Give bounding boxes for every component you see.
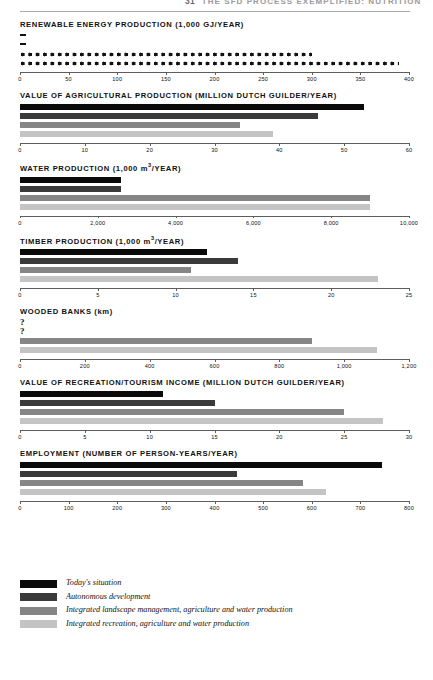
axis-tick	[20, 359, 21, 362]
axis-tick-label: 0	[18, 220, 21, 226]
axis-tick	[344, 430, 345, 433]
bar-series-0	[20, 391, 163, 397]
axis-tick-label: 0	[18, 147, 21, 153]
bar-series-2	[20, 480, 303, 486]
plot-area: 051015202530	[20, 391, 409, 443]
axis-tick	[279, 143, 280, 146]
axis-tick	[253, 216, 254, 219]
axis-tick-label: 200	[80, 363, 90, 369]
axis-tick	[215, 72, 216, 75]
axis-tick-label: 20	[328, 292, 335, 298]
bar-row	[20, 104, 409, 113]
axis-tick	[279, 359, 280, 362]
axis-tick	[215, 359, 216, 362]
axis-tick-label: 600	[307, 505, 317, 511]
axis-tick-label: 5	[96, 292, 99, 298]
axis-tick	[215, 501, 216, 504]
axis-tick-label: 5	[83, 434, 86, 440]
axis-tick	[312, 501, 313, 504]
axis-tick-label: 350	[355, 76, 365, 82]
axis-tick	[85, 430, 86, 433]
x-axis: 02004006008001,0001,200	[20, 359, 409, 372]
bar-rows	[20, 104, 409, 140]
bar-row	[20, 186, 409, 195]
bar-row	[20, 60, 409, 69]
bar-row	[20, 462, 409, 471]
bar-series-0	[20, 104, 364, 110]
plot-area: ??02004006008001,0001,200	[20, 320, 409, 372]
bar-series-1	[20, 113, 318, 119]
axis-tick	[279, 430, 280, 433]
figure-page: 31 THE SFD PROCESS EXEMPLIFIED: NUTRITIO…	[0, 0, 433, 680]
axis-tick	[344, 143, 345, 146]
bar-row	[20, 267, 409, 276]
bar-row	[20, 391, 409, 400]
axis-tick	[85, 359, 86, 362]
axis-tick-label: 100	[64, 505, 74, 511]
axis-tick-label: 4,000	[168, 220, 183, 226]
axis-tick	[344, 359, 345, 362]
axis-tick-label: 500	[258, 505, 268, 511]
bar-row	[20, 249, 409, 258]
bar-row: ?	[20, 320, 409, 329]
bar-series-2	[20, 338, 312, 344]
bar-row	[20, 195, 409, 204]
axis-tick	[409, 359, 410, 362]
axis-tick-label: 15	[211, 434, 218, 440]
chart-title: WOODED BANKS (km)	[20, 307, 433, 316]
axis-tick-label: 300	[307, 76, 317, 82]
axis-tick	[409, 216, 410, 219]
bar-series-0	[20, 462, 382, 468]
axis-tick	[331, 216, 332, 219]
bar-series-1	[20, 400, 215, 406]
axis-tick	[20, 143, 21, 146]
axis-tick-label: 10	[172, 292, 179, 298]
axis-tick	[117, 501, 118, 504]
axis-tick-label: 0	[18, 292, 21, 298]
axis-tick-label: 200	[210, 76, 220, 82]
axis-tick	[20, 501, 21, 504]
axis-tick-label: 20	[276, 434, 283, 440]
bar-row	[20, 400, 409, 409]
axis-tick	[150, 143, 151, 146]
plot-area: 0102030405060	[20, 104, 409, 156]
axis-tick	[176, 216, 177, 219]
bar-row	[20, 42, 409, 51]
axis-tick-label: 6,000	[246, 220, 261, 226]
axis-tick-label: 0	[18, 434, 21, 440]
chart-title: VALUE OF RECREATION/TOURISM INCOME (MILL…	[20, 378, 433, 387]
axis-tick-label: 10	[146, 434, 153, 440]
axis-tick-label: 0	[18, 505, 21, 511]
x-axis: 050100150200250300350400	[20, 72, 409, 85]
axis-tick	[166, 501, 167, 504]
axis-tick	[409, 72, 410, 75]
bar-series-3	[20, 418, 383, 424]
pictogram-bar	[20, 51, 312, 58]
bar-row	[20, 258, 409, 267]
axis-tick	[409, 288, 410, 291]
bar-row	[20, 347, 409, 356]
axis-tick-label: 30	[211, 147, 218, 153]
bar-series-3	[20, 131, 273, 137]
x-axis: 0102030405060	[20, 143, 409, 156]
chart-2: WATER PRODUCTION (1,000 m3/YEAR)02,0004,…	[0, 162, 433, 229]
axis-tick-label: 0	[18, 76, 21, 82]
legend-label: Autonomous development	[66, 592, 150, 603]
axis-tick	[20, 216, 21, 219]
bar-series-3	[20, 347, 377, 353]
bar-rows	[20, 462, 409, 498]
axis-tick	[263, 72, 264, 75]
axis-tick-label: 15	[250, 292, 257, 298]
page-number: 31	[185, 0, 195, 6]
bar-series-2	[20, 195, 370, 201]
axis-tick-label: 600	[210, 363, 220, 369]
axis-tick	[331, 288, 332, 291]
axis-tick	[253, 288, 254, 291]
chart-title: VALUE OF AGRICULTURAL PRODUCTION (MILLIO…	[20, 91, 433, 100]
chart-title: EMPLOYMENT (NUMBER OF PERSON-YEARS/YEAR)	[20, 449, 433, 458]
x-axis: 051015202530	[20, 430, 409, 443]
chart-5: VALUE OF RECREATION/TOURISM INCOME (MILL…	[0, 378, 433, 443]
legend-swatch	[20, 620, 57, 628]
axis-line	[20, 216, 409, 217]
chart-6: EMPLOYMENT (NUMBER OF PERSON-YEARS/YEAR)…	[0, 449, 433, 514]
